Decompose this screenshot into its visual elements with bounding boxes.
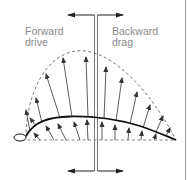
airfoil-shape	[14, 116, 176, 141]
airfoil-nose	[14, 134, 26, 141]
center-axis	[95, 15, 98, 171]
forward-label-line2: drive	[25, 37, 64, 48]
lower-pressure-arrows	[34, 120, 156, 140]
backward-drag-label: Backward drag	[112, 26, 158, 48]
backward-label-line2: drag	[112, 37, 158, 48]
upper-pressure-arrows	[26, 57, 170, 136]
pressure-envelope-dashed	[26, 51, 176, 140]
forward-drive-label: Forward drive	[25, 26, 64, 48]
